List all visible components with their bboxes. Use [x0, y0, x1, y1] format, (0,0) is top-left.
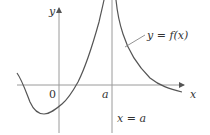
asymptote-label: x = a — [117, 112, 146, 125]
function-label: y = f(x) — [146, 29, 188, 42]
x-axis-label: x — [190, 88, 197, 101]
a-tick-label: a — [102, 88, 109, 101]
function-label-leader — [125, 35, 145, 47]
graph-canvas: y x 0 a y = f(x) x = a — [0, 0, 210, 135]
origin-label: 0 — [49, 88, 56, 101]
y-axis-label: y — [48, 5, 56, 18]
curve-left-branch — [17, 0, 104, 114]
